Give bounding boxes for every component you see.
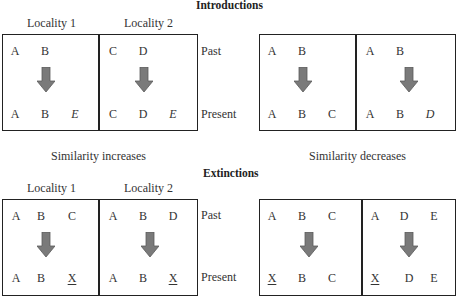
species-past: B [139, 209, 147, 224]
species-past: B [298, 209, 306, 224]
species-present-introduced: D [426, 107, 435, 122]
species-past: C [68, 209, 76, 224]
species-present: C [109, 107, 117, 122]
locality-1-label: Locality 1 [27, 181, 76, 196]
species-past: B [37, 209, 45, 224]
locality-2-label: Locality 2 [124, 16, 173, 31]
species-present: B [298, 107, 306, 122]
section-title-extinctions: Extinctions [203, 167, 259, 179]
species-past: D [139, 44, 148, 59]
species-present: B [41, 107, 49, 122]
species-present: D [405, 271, 414, 286]
species-past: A [366, 44, 375, 59]
locality-1-label: Locality 1 [27, 16, 76, 31]
species-past: A [12, 209, 21, 224]
species-present-introduced: C [328, 107, 336, 122]
species-present: A [11, 107, 20, 122]
species-present: C [328, 271, 336, 286]
species-past: C [328, 209, 336, 224]
species-past: D [400, 209, 409, 224]
species-present: A [268, 107, 277, 122]
species-past: B [298, 44, 306, 59]
species-present: A [12, 271, 21, 286]
locality-divider [361, 200, 363, 295]
species-present: B [298, 271, 306, 286]
panel-extinctions-similarity-decreases: A B C X B C A D E X D E [259, 199, 456, 296]
species-past: A [109, 209, 118, 224]
species-past: B [41, 44, 49, 59]
caption-similarity-decreases: Similarity decreases [309, 149, 406, 164]
down-arrow-icon [135, 67, 153, 92]
species-present: E [430, 271, 437, 286]
locality-divider [355, 35, 357, 130]
species-present-extinct: X [169, 271, 178, 286]
species-past: A [371, 209, 380, 224]
down-arrow-icon [400, 232, 418, 257]
down-arrow-icon [300, 232, 318, 257]
species-past: D [169, 209, 178, 224]
panel-introductions-similarity-decreases: A B A B C A B A B D [259, 34, 456, 131]
species-present-extinct: X [268, 271, 277, 286]
down-arrow-icon [141, 232, 159, 257]
species-present-extinct: X [371, 271, 380, 286]
row-label-present: Present [201, 270, 236, 285]
species-past: A [268, 44, 277, 59]
row-label-past: Past [201, 44, 221, 59]
species-present-introduced: E [169, 107, 176, 122]
species-present-introduced: E [71, 107, 78, 122]
species-present: A [109, 271, 118, 286]
locality-divider [98, 35, 100, 130]
species-present: A [366, 107, 375, 122]
species-past: A [268, 209, 277, 224]
species-past: A [11, 44, 20, 59]
species-present: D [139, 107, 148, 122]
species-past: B [396, 44, 404, 59]
species-present: B [396, 107, 404, 122]
species-present: B [139, 271, 147, 286]
row-label-present: Present [201, 107, 236, 122]
down-arrow-icon [37, 232, 55, 257]
species-past: E [430, 209, 437, 224]
panel-introductions-similarity-increases: A B A B E C D C D E [2, 34, 198, 131]
caption-similarity-increases: Similarity increases [51, 149, 146, 164]
locality-2-label: Locality 2 [124, 181, 173, 196]
locality-divider [98, 200, 100, 295]
row-label-past: Past [201, 208, 221, 223]
down-arrow-icon [294, 67, 312, 92]
down-arrow-icon [37, 67, 55, 92]
species-past: C [109, 44, 117, 59]
panel-extinctions-similarity-increases: A B C A B X A B D A B X [2, 199, 198, 296]
species-present: B [37, 271, 45, 286]
down-arrow-icon [400, 67, 418, 92]
section-title-introductions: Introductions [196, 0, 263, 11]
species-present-extinct: X [68, 271, 77, 286]
